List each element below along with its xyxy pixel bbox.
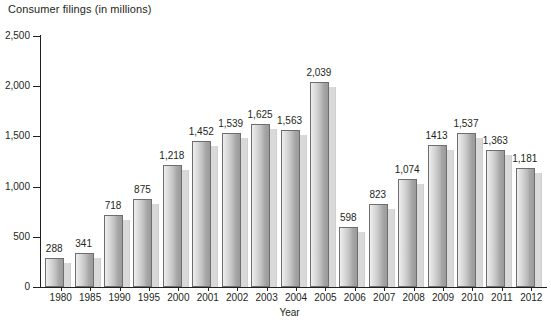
x-axis-tick-label: 2008 <box>403 292 425 303</box>
x-axis-tick <box>208 287 209 291</box>
x-axis-tick <box>296 287 297 291</box>
bar-value-label: 1,218 <box>159 151 184 161</box>
bar-value-label: 1,537 <box>453 119 478 129</box>
x-axis-title: Year <box>0 307 551 318</box>
x-axis-tick-label: 2005 <box>314 292 336 303</box>
x-axis-tick <box>325 287 326 291</box>
bar-value-label: 598 <box>340 213 357 223</box>
x-axis-tick <box>531 287 532 291</box>
x-axis-title-label: Year <box>279 307 299 318</box>
bar-value-label: 1,452 <box>189 127 214 137</box>
x-axis-tick-label: 2012 <box>520 292 542 303</box>
x-axis-tick-label: 1985 <box>79 292 101 303</box>
x-axis-tick-label: 2004 <box>285 292 307 303</box>
bar-column[interactable]: 1,452 <box>192 0 218 287</box>
x-axis-tick-label: 2000 <box>167 292 189 303</box>
bar-series: 2883417188751,2181,4521,5391,6251,5632,0… <box>0 0 551 333</box>
bar-value-label: 823 <box>369 190 386 200</box>
bar-column[interactable]: 2,039 <box>310 0 336 287</box>
bar[interactable] <box>369 204 388 287</box>
x-axis-tick <box>120 287 121 291</box>
x-axis-tick <box>443 287 444 291</box>
x-axis-tick <box>355 287 356 291</box>
bar[interactable] <box>222 133 241 288</box>
bar-column[interactable]: 1,563 <box>281 0 307 287</box>
bar[interactable] <box>310 82 329 287</box>
bar-column[interactable]: 1,363 <box>486 0 512 287</box>
bar-column[interactable]: 1,625 <box>251 0 277 287</box>
bar-column[interactable]: 718 <box>104 0 130 287</box>
bar-column[interactable]: 875 <box>133 0 159 287</box>
x-axis-tick <box>178 287 179 291</box>
bar-column[interactable]: 1,074 <box>398 0 424 287</box>
x-axis-tick-label: 1995 <box>138 292 160 303</box>
bar-value-label: 341 <box>75 239 92 249</box>
bar[interactable] <box>75 253 94 287</box>
x-axis-tick-label: 1990 <box>108 292 130 303</box>
bar-value-label: 1,563 <box>277 116 302 126</box>
bar-value-label: 1,363 <box>483 136 508 146</box>
bar[interactable] <box>192 141 211 287</box>
bar[interactable] <box>104 215 123 287</box>
bar-value-label: 1,181 <box>512 154 537 164</box>
bar-value-label: 1,625 <box>248 110 273 120</box>
x-axis-tick <box>267 287 268 291</box>
bar-value-label: 1413 <box>425 131 447 141</box>
x-axis-tick-label: 2011 <box>491 292 513 303</box>
bar[interactable] <box>457 133 476 287</box>
bar[interactable] <box>163 165 182 287</box>
bar-column[interactable]: 823 <box>369 0 395 287</box>
bar-column[interactable]: 1,181 <box>516 0 542 287</box>
bar[interactable] <box>251 124 270 287</box>
bar-column[interactable]: 288 <box>45 0 71 287</box>
x-axis-tick-label: 2009 <box>432 292 454 303</box>
bar-value-label: 1,539 <box>218 119 243 129</box>
bar[interactable] <box>516 168 535 287</box>
bar[interactable] <box>339 227 358 287</box>
bar-column[interactable]: 341 <box>75 0 101 287</box>
bar-value-label: 288 <box>46 244 63 254</box>
bar[interactable] <box>45 258 64 287</box>
bar[interactable] <box>428 145 447 287</box>
x-axis-tick <box>502 287 503 291</box>
x-axis-tick <box>149 287 150 291</box>
x-axis-tick-label: 2010 <box>461 292 483 303</box>
x-axis-tick <box>61 287 62 291</box>
x-axis-tick-label: 2003 <box>255 292 277 303</box>
bar-chart: Consumer filings (in millions) 05001,000… <box>0 0 551 333</box>
bar[interactable] <box>486 150 505 287</box>
bar-column[interactable]: 1,218 <box>163 0 189 287</box>
x-axis-tick-label: 2001 <box>197 292 219 303</box>
bar-value-label: 1,074 <box>395 165 420 175</box>
bar-column[interactable]: 1,539 <box>222 0 248 287</box>
bar[interactable] <box>133 199 152 287</box>
x-axis-tick <box>237 287 238 291</box>
bar-column[interactable]: 1,537 <box>457 0 483 287</box>
bar[interactable] <box>398 179 417 287</box>
bar-value-label: 875 <box>134 185 151 195</box>
x-axis-tick-label: 2006 <box>344 292 366 303</box>
bar-value-label: 718 <box>105 201 122 211</box>
x-axis-tick <box>90 287 91 291</box>
x-axis-tick-label: 1980 <box>50 292 72 303</box>
bar-column[interactable]: 1413 <box>428 0 454 287</box>
x-axis-tick-label: 2002 <box>226 292 248 303</box>
bar[interactable] <box>281 130 300 287</box>
x-axis-tick <box>414 287 415 291</box>
x-axis-tick-label: 2007 <box>373 292 395 303</box>
bar-value-label: 2,039 <box>306 68 331 78</box>
x-axis-tick <box>384 287 385 291</box>
bar-column[interactable]: 598 <box>339 0 365 287</box>
x-axis-tick <box>472 287 473 291</box>
